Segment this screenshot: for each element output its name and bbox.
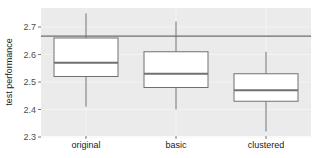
- y-tick-label: 2.6: [23, 50, 36, 60]
- x-tick-label-original: original: [71, 140, 100, 150]
- y-tick-label: 2.4: [23, 105, 36, 115]
- x-tick-label-clustered: clustered: [248, 140, 285, 150]
- x-axis: originalbasicclustered: [71, 136, 284, 150]
- iqr-box: [234, 74, 298, 102]
- box-plot-chart: 2.32.42.52.62.7 originalbasicclustered t…: [0, 0, 323, 158]
- x-tick-label-basic: basic: [165, 140, 187, 150]
- y-tick-label: 2.7: [23, 22, 36, 32]
- y-axis-title: test performance: [4, 38, 14, 106]
- y-axis: 2.32.42.52.62.7: [23, 22, 41, 142]
- plot-svg: 2.32.42.52.62.7 originalbasicclustered t…: [0, 0, 323, 158]
- y-tick-label: 2.5: [23, 77, 36, 87]
- y-tick-label: 2.3: [23, 132, 36, 142]
- iqr-box: [54, 38, 118, 77]
- iqr-box: [144, 52, 208, 88]
